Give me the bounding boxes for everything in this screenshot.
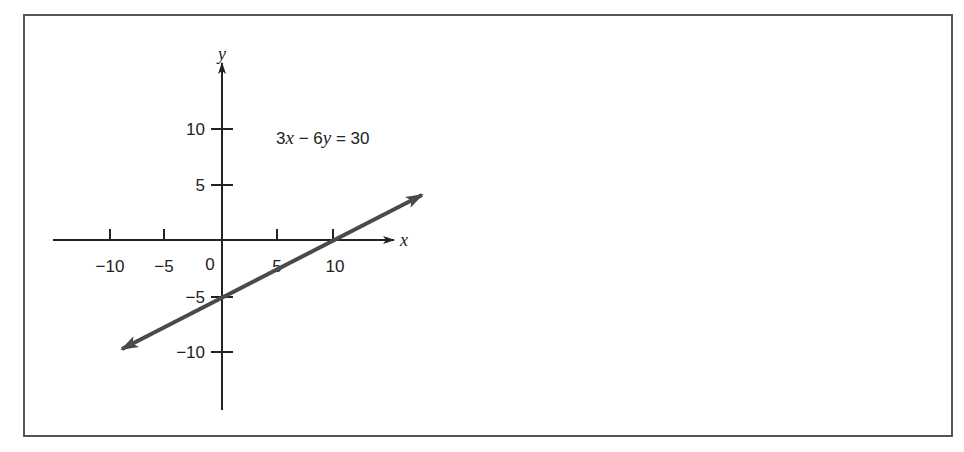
eq-var-y: y [321,127,332,148]
eq-coef-y: 6 [313,129,322,148]
y-tick-label: 10 [186,120,205,139]
x-tick-label: 10 [326,257,345,276]
x-axis-label: x [399,230,408,250]
y-tick-label: 5 [196,176,205,195]
equation-label: 3x − 6y = 30 [276,127,369,148]
y-tick-label: −5 [186,288,205,307]
origin-label: 0 [205,255,214,274]
eq-op: − [294,129,313,148]
eq-coef-x: 3 [276,129,285,148]
x-tick-label: −5 [154,257,173,276]
y-axis-label: y [216,44,226,64]
y-tick-label: −10 [176,343,205,362]
eq-rhs: = 30 [331,129,369,148]
x-tick-label: −10 [96,257,125,276]
chart-plot: −10 −5 5 10 0 10 5 −5 −10 x y 3x − 6y = … [0,0,964,452]
